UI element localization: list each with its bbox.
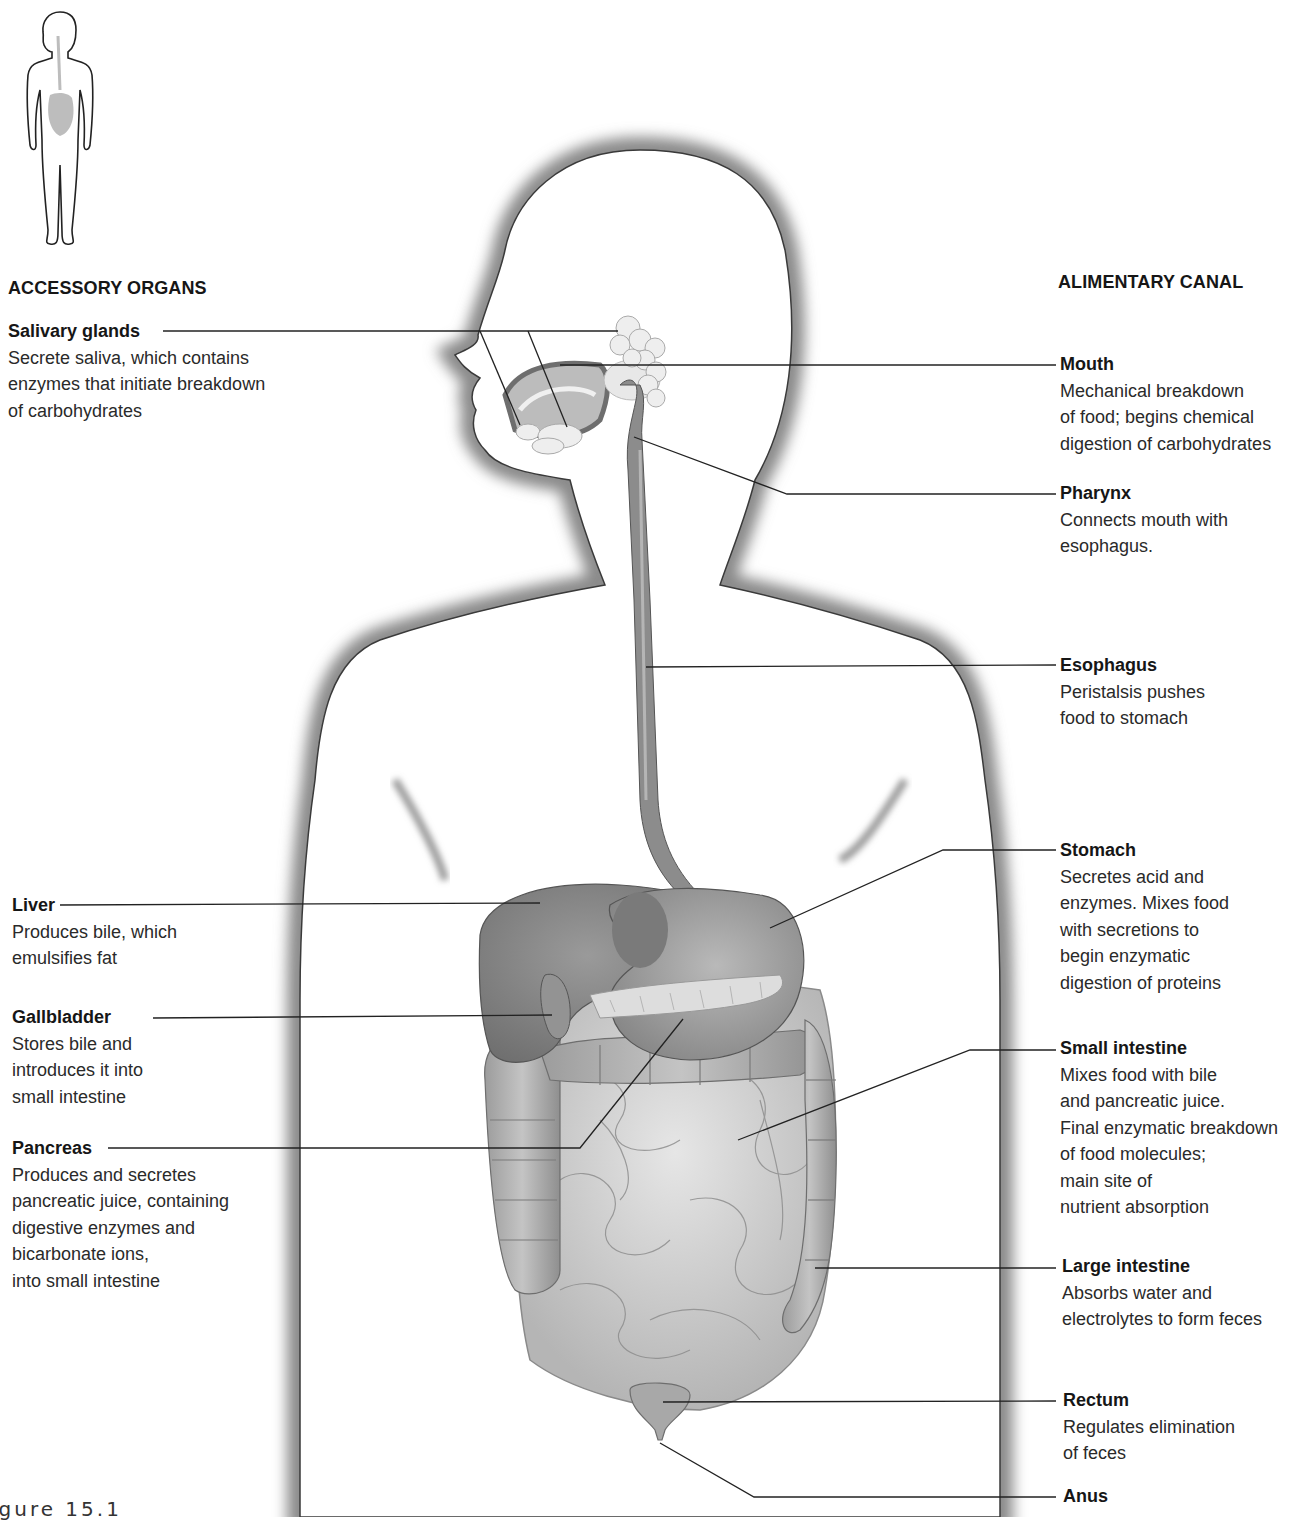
- organ-description: Stores bile and introduces it into small…: [12, 1031, 143, 1111]
- organ-name: Anus: [1063, 1483, 1108, 1510]
- organ-name: Large intestine: [1062, 1253, 1262, 1280]
- organ-description: Produces and secretes pancreatic juice, …: [12, 1162, 229, 1295]
- organ-name: Stomach: [1060, 837, 1229, 864]
- alimentary-canal-heading: ALIMENTARY CANAL: [1058, 272, 1243, 293]
- organ-name: Pharynx: [1060, 480, 1228, 507]
- label-mouth: Mouth Mechanical breakdown of food; begi…: [1060, 351, 1271, 457]
- organ-name: Esophagus: [1060, 652, 1205, 679]
- organ-name: Liver: [12, 892, 177, 919]
- organ-name: Pancreas: [12, 1135, 229, 1162]
- accessory-organs-heading: ACCESSORY ORGANS: [8, 278, 207, 299]
- organ-description: Mechanical breakdown of food; begins che…: [1060, 378, 1271, 458]
- label-esophagus: Esophagus Peristalsis pushes food to sto…: [1060, 652, 1205, 732]
- reference-body-icon: [27, 12, 93, 244]
- label-gallbladder: Gallbladder Stores bile and introduces i…: [12, 1004, 143, 1110]
- organ-name: Salivary glands: [8, 318, 265, 345]
- organ-name: Rectum: [1063, 1387, 1235, 1414]
- organ-description: Mixes food with bile and pancreatic juic…: [1060, 1062, 1278, 1221]
- organ-name: Small intestine: [1060, 1035, 1278, 1062]
- organ-description: Secrete saliva, which contains enzymes t…: [8, 345, 265, 425]
- label-small-intestine: Small intestine Mixes food with bile and…: [1060, 1035, 1278, 1221]
- organ-name: Mouth: [1060, 351, 1271, 378]
- figure-caption: igure 15.1: [0, 1497, 122, 1521]
- organ-description: Produces bile, which emulsifies fat: [12, 919, 177, 972]
- organ-description: Peristalsis pushes food to stomach: [1060, 679, 1205, 732]
- organ-description: Connects mouth with esophagus.: [1060, 507, 1228, 560]
- label-large-intestine: Large intestine Absorbs water and electr…: [1062, 1253, 1262, 1333]
- label-stomach: Stomach Secretes acid and enzymes. Mixes…: [1060, 837, 1229, 996]
- label-anus: Anus: [1063, 1483, 1108, 1510]
- label-rectum: Rectum Regulates elimination of feces: [1063, 1387, 1235, 1467]
- organ-name: Gallbladder: [12, 1004, 143, 1031]
- label-liver: Liver Produces bile, which emulsifies fa…: [12, 892, 177, 972]
- label-pancreas: Pancreas Produces and secretes pancreati…: [12, 1135, 229, 1294]
- organ-description: Regulates elimination of feces: [1063, 1414, 1235, 1467]
- label-pharynx: Pharynx Connects mouth with esophagus.: [1060, 480, 1228, 560]
- organ-description: Absorbs water and electrolytes to form f…: [1062, 1280, 1262, 1333]
- organ-description: Secretes acid and enzymes. Mixes food wi…: [1060, 864, 1229, 997]
- label-salivary-glands: Salivary glands Secrete saliva, which co…: [8, 318, 265, 424]
